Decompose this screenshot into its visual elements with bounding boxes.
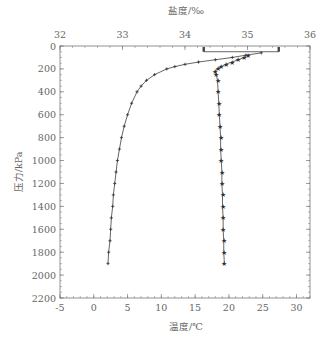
svg-text:★: ★ [219,169,225,177]
left-tick-label: 1800 [32,247,56,258]
top-axis-label: 盐度/‰ [168,5,204,16]
svg-text:★: ★ [218,146,224,154]
svg-text:★: ★ [218,157,224,165]
top-tick-label: 33 [116,29,128,40]
bottom-tick-label: 0 [91,302,97,313]
salinity-series: ★★★★★★★★★★★★★★★★★★★★★★★★★★ [212,52,251,268]
temperature-salinity-pressure-chart: 盐度/‰ 3233343536 020040060080010001200140… [0,0,327,347]
left-axis-label: 压力/kPa [13,151,24,192]
bottom-tick-label: 25 [257,302,269,313]
bottom-tick-label: 30 [290,302,302,313]
svg-text:★: ★ [221,249,227,257]
svg-text:★: ★ [219,180,225,188]
bottom-tick-label: 20 [223,302,235,313]
bottom-tick-label: 10 [155,302,167,313]
bottom-tick-label: -5 [55,302,64,313]
svg-text:★: ★ [221,237,227,245]
left-tick-label: 400 [38,86,56,97]
temperature-series [106,51,263,265]
svg-text:★: ★ [216,111,222,119]
bottom-tick-label: 5 [125,302,131,313]
svg-text:★: ★ [220,226,226,234]
left-tick-label: 200 [38,63,56,74]
left-axis-ticks: 0200400600800100012001400160018002000220… [32,41,310,304]
bottom-axis-ticks: -5051015202530 [55,294,310,313]
top-tick-label: 36 [304,29,316,40]
mixed-layer-bracket [203,47,280,52]
svg-text:★: ★ [220,191,226,199]
svg-text:★: ★ [220,214,226,222]
left-tick-label: 1600 [32,224,56,235]
svg-text:★: ★ [215,88,221,96]
left-tick-label: 800 [38,132,56,143]
bottom-tick-label: 15 [189,302,201,313]
top-tick-label: 34 [179,29,191,40]
plot-frame [60,46,310,298]
left-tick-label: 2000 [32,270,56,281]
top-axis-ticks: 3233343536 [54,29,316,50]
top-tick-label: 35 [241,29,253,40]
left-tick-label: 1400 [32,201,56,212]
svg-text:★: ★ [229,59,235,67]
bottom-axis-label: 温度/℃ [169,321,203,332]
svg-text:★: ★ [235,56,241,64]
svg-text:★: ★ [220,203,226,211]
left-tick-label: 1200 [32,178,56,189]
svg-text:★: ★ [217,123,223,131]
left-tick-label: 0 [50,41,56,52]
svg-text:★: ★ [241,54,247,62]
top-tick-label: 32 [54,29,66,40]
svg-text:★: ★ [218,134,224,142]
left-tick-label: 2200 [32,293,56,304]
left-tick-label: 1000 [32,155,56,166]
svg-text:★: ★ [216,100,222,108]
left-tick-label: 600 [38,109,56,120]
svg-text:★: ★ [215,77,221,85]
svg-text:★: ★ [221,260,227,268]
